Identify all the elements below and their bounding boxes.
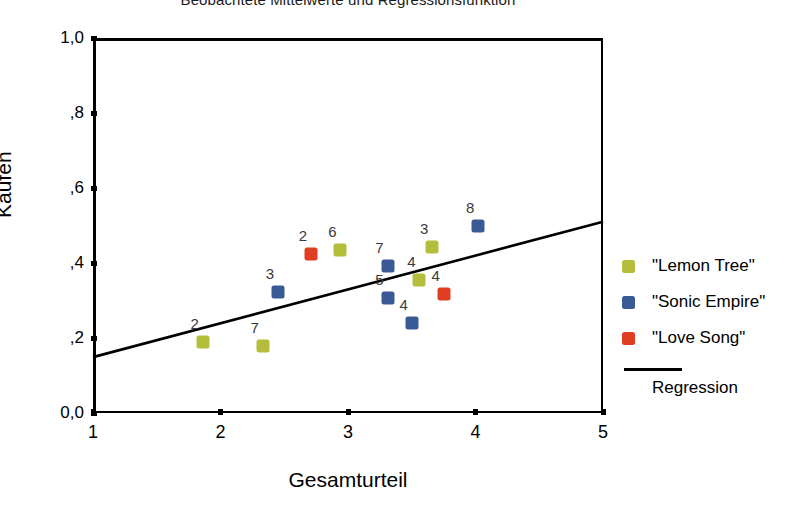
legend-label: "Lemon Tree" (652, 256, 755, 276)
axis-frame-right (601, 38, 604, 413)
regression-line-svg (93, 38, 603, 413)
legend-color-swatch (622, 296, 635, 309)
y-tick-label: ,4 (70, 253, 84, 273)
axis-frame-top (93, 38, 603, 41)
legend-item[interactable]: "Love Song" (622, 320, 782, 356)
legend-item[interactable]: "Lemon Tree" (622, 248, 782, 284)
data-point-label: 4 (431, 267, 439, 284)
x-tick-mark (601, 409, 606, 415)
data-point-label: 4 (407, 253, 415, 270)
legend-series-list: "Lemon Tree""Sonic Empire""Love Song" (622, 248, 782, 356)
data-point[interactable] (426, 240, 439, 253)
x-tick-label: 4 (470, 422, 480, 443)
x-tick-label: 1 (88, 422, 98, 443)
legend: "Lemon Tree""Sonic Empire""Love Song" Re… (622, 248, 782, 398)
plot-area: 0,0,2,4,6,81,0 12345 276433754824 (93, 38, 603, 413)
x-tick-label: 5 (598, 422, 608, 443)
legend-label-regression: Regression (652, 378, 782, 398)
x-tick-mark (473, 409, 478, 415)
legend-color-swatch (622, 332, 635, 345)
data-point[interactable] (196, 335, 209, 348)
y-tick-label: ,8 (70, 103, 84, 123)
data-point-label: 2 (190, 315, 198, 332)
x-tick-mark (218, 409, 223, 415)
y-tick-label: 0,0 (60, 403, 84, 423)
data-point[interactable] (405, 317, 418, 330)
x-tick-label: 2 (215, 422, 225, 443)
data-point[interactable] (472, 219, 485, 232)
x-tick-mark (346, 409, 351, 415)
data-point-label: 5 (375, 271, 383, 288)
y-tick-mark (91, 36, 97, 41)
regression-line (93, 222, 603, 357)
data-point-label: 8 (466, 199, 474, 216)
data-point[interactable] (334, 243, 347, 256)
legend-label: "Love Song" (652, 328, 745, 348)
y-tick-mark (91, 111, 97, 116)
legend-item-regression: Regression (622, 368, 782, 398)
data-point-label: 6 (328, 223, 336, 240)
y-axis-title: Kaufen (0, 151, 16, 218)
data-point-label: 7 (375, 239, 383, 256)
data-point[interactable] (271, 286, 284, 299)
x-axis-title: Gesamturteil (93, 468, 603, 492)
legend-color-swatch (622, 260, 635, 273)
data-point[interactable] (437, 287, 450, 300)
y-tick-mark (91, 186, 97, 191)
data-point-label: 4 (400, 296, 408, 313)
y-tick-label: ,2 (70, 328, 84, 348)
data-point[interactable] (413, 273, 426, 286)
y-tick-mark (91, 261, 97, 266)
y-tick-mark (91, 336, 97, 341)
legend-item[interactable]: "Sonic Empire" (622, 284, 782, 320)
x-tick-label: 3 (343, 422, 353, 443)
data-point-label: 3 (420, 220, 428, 237)
x-tick-mark (91, 409, 96, 415)
regression-line-swatch (624, 368, 682, 371)
y-tick-label: 1,0 (60, 28, 84, 48)
data-point[interactable] (381, 291, 394, 304)
chart-container: Beobachtete Mittelwerte und Regressionsf… (0, 0, 785, 514)
legend-label: "Sonic Empire" (652, 292, 765, 312)
y-tick-label: ,6 (70, 178, 84, 198)
axis-frame-left (93, 38, 96, 413)
chart-title: Beobachtete Mittelwerte und Regressionsf… (93, 0, 603, 8)
data-point-label: 3 (266, 265, 274, 282)
data-point-label: 7 (250, 319, 258, 336)
data-point-label: 2 (299, 227, 307, 244)
data-point[interactable] (256, 339, 269, 352)
data-point[interactable] (305, 247, 318, 260)
